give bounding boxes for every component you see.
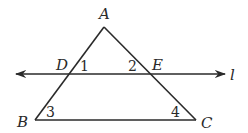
angle-1: 1 bbox=[80, 58, 89, 74]
label-line-l: l bbox=[230, 66, 235, 84]
label-a: A bbox=[97, 5, 110, 23]
angle-3: 3 bbox=[46, 104, 55, 120]
label-e: E bbox=[151, 56, 163, 74]
label-b: B bbox=[16, 113, 28, 131]
label-d: D bbox=[55, 56, 68, 74]
label-c: C bbox=[201, 114, 213, 132]
geometry-diagram: A B C D E l 1 2 3 4 bbox=[0, 0, 248, 133]
angle-2: 2 bbox=[128, 58, 137, 74]
angle-4: 4 bbox=[171, 104, 180, 120]
